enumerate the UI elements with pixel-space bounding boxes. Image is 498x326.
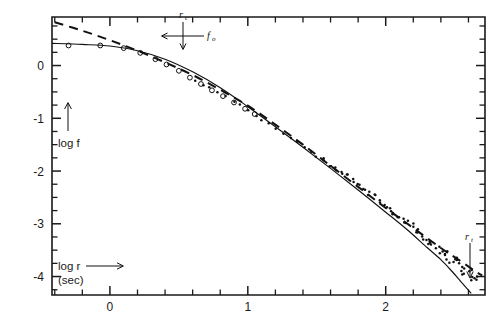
data-point-filled (476, 275, 479, 278)
tidal-radius-marker: r t (465, 231, 474, 278)
data-point-filled (444, 254, 447, 257)
x-axis-title: log r (58, 260, 81, 272)
data-point-filled (247, 109, 250, 112)
log-f-vs-log-r-plot: 0-1-2-3-4 012 log f log r (sec) (0, 0, 498, 326)
data-point-filled (461, 266, 464, 269)
y-axis-tick-labels: 0-1-2-3-4 (33, 59, 44, 284)
y-tick-label: -1 (33, 112, 44, 126)
data-point-filled (346, 173, 349, 176)
data-point-filled (463, 272, 466, 275)
data-point-filled (430, 243, 433, 246)
data-point-filled (367, 194, 370, 197)
data-point-filled (438, 245, 441, 248)
data-point-filled (425, 239, 428, 242)
data-point-filled (267, 122, 270, 125)
data-point-filled (334, 166, 337, 169)
core-radius-marker: r c f o (162, 9, 217, 50)
central-density-subscript: o (212, 35, 216, 43)
data-point-filled (194, 80, 197, 83)
data-point-filled (296, 141, 299, 144)
data-point-filled (352, 178, 355, 181)
data-point-filled (358, 183, 361, 186)
data-point-filled (445, 258, 448, 261)
data-point-open (188, 75, 193, 80)
y-tick-label: -4 (33, 270, 44, 284)
data-point-filled (202, 84, 205, 87)
data-point-filled (422, 238, 425, 241)
data-point-filled (470, 279, 473, 282)
y-tick-label: 0 (37, 59, 44, 73)
y-axis-ticks (52, 26, 485, 290)
x-axis-title-group: log r (sec) (58, 260, 123, 286)
core-radius-label: r (179, 9, 183, 20)
y-axis-title: log f (58, 137, 81, 149)
data-point-filled (341, 173, 344, 176)
tidal-radius-subscript: t (471, 236, 474, 244)
data-point-filled (208, 86, 211, 89)
data-point-filled (368, 190, 371, 193)
data-point-filled (282, 132, 285, 135)
data-point-filled (412, 225, 415, 228)
data-point-filled (454, 258, 457, 261)
central-density-label: f (207, 30, 211, 41)
data-point-filled (303, 146, 306, 149)
data-point-filled (458, 262, 461, 265)
data-point-filled (352, 181, 355, 184)
data-point-filled (383, 204, 386, 207)
data-point-filled (412, 222, 415, 225)
data-point-open (243, 106, 248, 111)
data-point-filled (441, 250, 444, 253)
data-point-filled (460, 270, 463, 273)
data-point-filled (373, 193, 376, 196)
data-point-filled (379, 201, 382, 204)
data-point-filled (389, 207, 392, 210)
data-point-filled (216, 91, 219, 94)
plot-frame (52, 17, 485, 295)
data-point-filled (386, 206, 389, 209)
data-point-filled (224, 95, 227, 98)
data-point-filled (407, 220, 410, 223)
y-tick-label: -2 (33, 165, 44, 179)
data-point-filled (239, 103, 242, 106)
tidal-radius-label: r (465, 231, 469, 242)
data-point-filled (435, 247, 438, 250)
data-point-filled (404, 222, 407, 225)
data-point-filled (391, 213, 394, 216)
data-point-filled (446, 250, 449, 253)
cross-arrows-icon (162, 22, 205, 50)
data-point-filled (471, 269, 474, 272)
x-axis-subtitle: (sec) (58, 274, 84, 286)
data-point-filled (402, 217, 405, 220)
data-point-filled (315, 156, 318, 159)
data-point-filled (322, 157, 325, 160)
y-tick-label: -3 (33, 217, 44, 231)
data-point-filled (364, 188, 367, 191)
data-point-filled (475, 278, 478, 281)
data-point-filled (415, 231, 418, 234)
data-point-filled (390, 210, 393, 213)
x-tick-label: 2 (382, 300, 389, 314)
data-point-filled (421, 235, 424, 238)
x-tick-label: 1 (244, 300, 251, 314)
right-arrow-icon (86, 263, 123, 269)
data-point-filled (463, 267, 466, 270)
data-point-filled (452, 261, 455, 264)
data-point-filled (290, 137, 293, 140)
data-point-open (176, 68, 181, 73)
data-point-filled (448, 262, 451, 265)
plot-figure: 0-1-2-3-4 012 log f log r (sec) (0, 0, 498, 326)
data-point-filled (439, 252, 442, 255)
y-axis-title-group: log f (58, 103, 81, 149)
data-point-filled (379, 199, 382, 202)
data-point-filled (398, 216, 401, 219)
data-point-filled (310, 150, 313, 153)
data-points (66, 43, 478, 281)
data-point-filled (335, 169, 338, 172)
x-axis-tick-labels: 012 (107, 300, 390, 314)
alternate-fit-curve (55, 22, 482, 275)
core-radius-subscript: c (185, 14, 189, 22)
fitted-curves (52, 22, 482, 293)
data-point-filled (417, 228, 420, 231)
down-arrow-icon (467, 243, 473, 278)
data-point-filled (233, 100, 236, 103)
